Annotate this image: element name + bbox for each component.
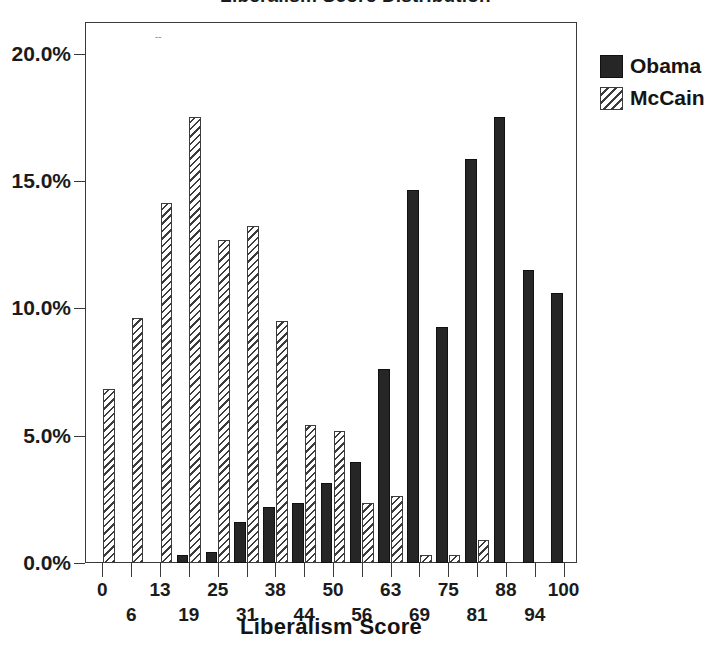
x-tick-mark bbox=[275, 563, 276, 577]
x-tick-label-100: 100 bbox=[548, 579, 580, 601]
bar-mccain-13 bbox=[161, 203, 173, 563]
bar-mccain-19 bbox=[189, 117, 201, 563]
y-tick-label: 20.0% bbox=[11, 42, 71, 66]
y-tick-mark bbox=[74, 308, 85, 309]
x-tick-mark bbox=[419, 563, 420, 577]
x-tick-mark bbox=[535, 563, 536, 577]
chart-legend: Obama McCain bbox=[600, 52, 711, 116]
bar-obama-19 bbox=[177, 555, 189, 563]
bar-obama-69 bbox=[407, 190, 419, 563]
y-axis: 0.0%5.0%10.0%15.0%20.0% bbox=[0, 0, 85, 652]
bar-mccain-38 bbox=[276, 321, 288, 563]
x-tick-mark bbox=[218, 563, 219, 577]
x-tick-mark bbox=[304, 563, 305, 577]
x-tick-mark bbox=[102, 563, 103, 577]
legend-item-mccain: McCain bbox=[600, 84, 711, 112]
x-tick-label-38: 38 bbox=[265, 579, 286, 601]
x-tick-label-63: 63 bbox=[380, 579, 401, 601]
x-tick-mark bbox=[362, 563, 363, 577]
y-tick-mark bbox=[74, 54, 85, 55]
x-tick-mark bbox=[448, 563, 449, 577]
x-tick-label-25: 25 bbox=[207, 579, 228, 601]
bar-obama-88 bbox=[494, 117, 506, 563]
bar-obama-44 bbox=[292, 503, 304, 563]
x-tick-mark bbox=[391, 563, 392, 577]
x-tick-mark bbox=[247, 563, 248, 577]
y-tick-label: 15.0% bbox=[11, 169, 71, 193]
x-axis-title: Liberalism Score bbox=[86, 614, 576, 640]
liberalism-score-bar-chart: Liberalism Score Distribution -- 0.0%5.0… bbox=[0, 0, 711, 652]
legend-swatch-obama-icon bbox=[600, 55, 623, 78]
bar-mccain-63 bbox=[391, 496, 403, 564]
y-tick-mark bbox=[74, 436, 85, 437]
y-tick-mark bbox=[74, 563, 85, 564]
x-tick-mark bbox=[477, 563, 478, 577]
bar-obama-31 bbox=[234, 522, 246, 563]
bar-mccain-25 bbox=[218, 240, 230, 563]
y-tick-mark bbox=[74, 181, 85, 182]
legend-swatch-mccain-icon bbox=[600, 87, 623, 110]
bar-layer bbox=[86, 23, 576, 563]
x-tick-label-75: 75 bbox=[438, 579, 459, 601]
bar-obama-25 bbox=[206, 552, 218, 563]
plot-area bbox=[86, 23, 576, 563]
chart-title: Liberalism Score Distribution bbox=[0, 0, 711, 6]
bar-obama-100 bbox=[551, 293, 563, 563]
legend-label-obama: Obama bbox=[630, 54, 701, 78]
bar-mccain-6 bbox=[132, 318, 144, 563]
bar-obama-56 bbox=[350, 462, 362, 563]
x-tick-label-0: 0 bbox=[97, 579, 108, 601]
bar-mccain-0 bbox=[103, 389, 115, 563]
legend-item-obama: Obama bbox=[600, 52, 711, 80]
bar-obama-75 bbox=[436, 327, 448, 563]
bar-mccain-69 bbox=[420, 555, 432, 563]
y-tick-label: 0.0% bbox=[23, 551, 71, 575]
bar-obama-81 bbox=[465, 159, 477, 563]
y-tick-label: 5.0% bbox=[23, 424, 71, 448]
bar-mccain-81 bbox=[478, 540, 490, 563]
x-tick-mark bbox=[189, 563, 190, 577]
x-tick-label-50: 50 bbox=[322, 579, 343, 601]
bar-obama-63 bbox=[378, 369, 390, 563]
x-tick-label-13: 13 bbox=[149, 579, 170, 601]
bar-mccain-31 bbox=[247, 226, 259, 564]
bar-mccain-50 bbox=[334, 431, 346, 563]
x-tick-mark bbox=[506, 563, 507, 577]
y-tick-label: 10.0% bbox=[11, 296, 71, 320]
bar-mccain-44 bbox=[305, 425, 317, 563]
bar-obama-50 bbox=[321, 483, 333, 563]
bar-mccain-75 bbox=[449, 555, 461, 563]
legend-label-mccain: McCain bbox=[630, 86, 705, 110]
bar-obama-38 bbox=[263, 507, 275, 563]
x-tick-mark bbox=[333, 563, 334, 577]
x-tick-mark bbox=[131, 563, 132, 577]
x-tick-mark bbox=[160, 563, 161, 577]
bar-mccain-56 bbox=[362, 503, 374, 563]
x-tick-mark bbox=[564, 563, 565, 577]
bar-obama-94 bbox=[523, 270, 535, 563]
x-tick-label-88: 88 bbox=[495, 579, 516, 601]
